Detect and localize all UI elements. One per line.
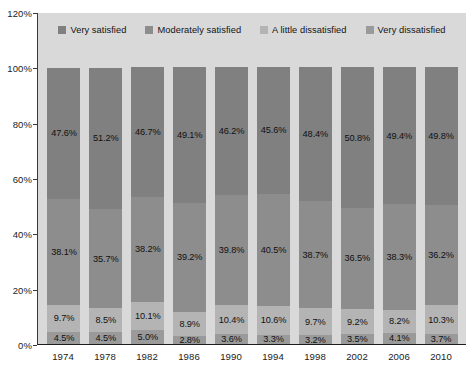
x-tick-label: 1982	[126, 345, 168, 370]
x-tick-label: 1978	[84, 345, 126, 370]
y-tick-label: 100%	[7, 63, 32, 74]
bar-segment-label: 9.2%	[347, 317, 368, 327]
bar-column[interactable]: 48.4%38.7%9.7%3.2%	[294, 13, 336, 344]
bar-segment-label: 38.2%	[135, 244, 161, 254]
bar-segment[interactable]: 49.4%	[383, 67, 416, 204]
bar-segment[interactable]: 10.3%	[425, 305, 458, 333]
bar-segment[interactable]: 2.8%	[173, 336, 206, 344]
bar-column[interactable]: 49.4%38.3%8.2%4.1%	[378, 13, 420, 344]
x-tick-label: 1974	[42, 345, 84, 370]
bar-segment[interactable]: 39.8%	[215, 195, 248, 305]
bar-segment-label: 2.8%	[179, 335, 200, 345]
bar-column[interactable]: 49.8%36.2%10.3%3.7%	[420, 13, 462, 344]
bar-segment-label: 9.7%	[54, 313, 75, 323]
bar-segment[interactable]: 38.1%	[47, 199, 80, 304]
bar-segment[interactable]: 49.1%	[173, 67, 206, 203]
bar-segment[interactable]: 4.1%	[383, 333, 416, 344]
bar-stack: 50.8%36.5%9.2%3.5%	[341, 67, 374, 344]
bar-segment[interactable]: 45.6%	[257, 67, 290, 193]
bar-segment[interactable]: 10.1%	[131, 302, 164, 330]
bar-segment[interactable]: 9.7%	[299, 308, 332, 335]
bar-segment[interactable]: 4.5%	[47, 332, 80, 344]
bar-column[interactable]: 45.6%40.5%10.6%3.3%	[253, 13, 295, 344]
bar-column[interactable]: 51.2%35.7%8.5%4.5%	[85, 13, 127, 344]
bar-segment[interactable]: 46.2%	[215, 67, 248, 195]
bar-segment[interactable]: 9.7%	[47, 305, 80, 332]
bar-segment[interactable]: 3.6%	[215, 334, 248, 344]
bar-segment[interactable]: 36.5%	[341, 208, 374, 309]
bar-segment-label: 39.2%	[177, 252, 203, 262]
bar-segment-label: 5.0%	[137, 332, 158, 342]
bar-column[interactable]: 49.1%39.2%8.9%2.8%	[169, 13, 211, 344]
bar-segment[interactable]: 38.3%	[383, 204, 416, 310]
bar-segment-label: 10.3%	[428, 315, 454, 325]
y-tick-label: 20%	[13, 284, 32, 295]
bar-segment[interactable]: 51.2%	[89, 68, 122, 210]
bar-column[interactable]: 46.2%39.8%10.4%3.6%	[211, 13, 253, 344]
bar-segment-label: 38.3%	[386, 252, 412, 262]
bar-segment[interactable]: 47.6%	[47, 68, 80, 200]
bar-segment[interactable]: 35.7%	[89, 209, 122, 308]
bar-segment-label: 49.8%	[428, 131, 454, 141]
bar-segment-label: 47.6%	[51, 128, 77, 138]
bar-segment-label: 3.2%	[305, 335, 326, 345]
bar-segment-label: 36.5%	[345, 253, 371, 263]
bar-segment[interactable]: 46.7%	[131, 67, 164, 196]
bar-segment-label: 46.2%	[219, 126, 245, 136]
bar-segment-label: 40.5%	[261, 245, 287, 255]
bar-segment-label: 4.1%	[389, 333, 410, 343]
stacked-bar-chart: 0%20%40%60%80%100%120% Very satisfiedMod…	[0, 0, 476, 370]
bar-segment[interactable]: 3.7%	[425, 334, 458, 344]
bar-segment-label: 10.1%	[135, 311, 161, 321]
x-tick-label: 1998	[294, 345, 336, 370]
x-tick-label: 1994	[252, 345, 294, 370]
plot-area: Very satisfiedModerately satisfiedA litt…	[37, 13, 466, 345]
bar-segment[interactable]: 3.2%	[299, 335, 332, 344]
bar-segment[interactable]: 8.9%	[173, 312, 206, 337]
bar-segment[interactable]: 48.4%	[299, 67, 332, 201]
bar-segment-label: 36.2%	[428, 250, 454, 260]
y-tick-label: 0%	[18, 340, 32, 351]
bar-stack: 48.4%38.7%9.7%3.2%	[299, 67, 332, 344]
bar-segment[interactable]: 8.5%	[89, 308, 122, 332]
bar-stack: 46.2%39.8%10.4%3.6%	[215, 67, 248, 344]
bar-segment-label: 4.5%	[54, 333, 75, 343]
bar-segment[interactable]: 8.2%	[383, 310, 416, 333]
bar-column[interactable]: 46.7%38.2%10.1%5.0%	[127, 13, 169, 344]
bar-segment[interactable]: 39.2%	[173, 203, 206, 311]
x-axis: 1974197819821986199019941998200220062010	[37, 345, 466, 370]
bar-segment-label: 38.1%	[51, 247, 77, 257]
y-tick-label: 120%	[7, 8, 32, 19]
bar-segment-label: 3.3%	[263, 334, 284, 344]
bar-segment[interactable]: 9.2%	[341, 309, 374, 334]
bar-segment[interactable]: 38.7%	[299, 201, 332, 308]
y-tick-label: 40%	[13, 229, 32, 240]
bar-segment-label: 10.6%	[261, 315, 287, 325]
bar-segment[interactable]: 4.5%	[89, 332, 122, 344]
bar-stack: 49.1%39.2%8.9%2.8%	[173, 67, 206, 344]
bar-segment-label: 8.9%	[179, 319, 200, 329]
bar-stack: 45.6%40.5%10.6%3.3%	[257, 67, 290, 344]
bar-stack: 49.4%38.3%8.2%4.1%	[383, 67, 416, 344]
x-tick-label: 2010	[420, 345, 462, 370]
bar-segment-label: 10.4%	[219, 315, 245, 325]
bar-segment[interactable]: 3.3%	[257, 335, 290, 344]
bar-segment[interactable]: 49.8%	[425, 67, 458, 205]
bar-segment[interactable]: 10.4%	[215, 305, 248, 334]
bar-column[interactable]: 50.8%36.5%9.2%3.5%	[336, 13, 378, 344]
bar-segment[interactable]: 3.5%	[341, 334, 374, 344]
bar-series-container: 47.6%38.1%9.7%4.5%51.2%35.7%8.5%4.5%46.7…	[38, 13, 466, 344]
bar-segment-label: 46.7%	[135, 127, 161, 137]
bar-segment[interactable]: 10.6%	[257, 306, 290, 335]
bar-segment[interactable]: 38.2%	[131, 197, 164, 303]
bar-segment-label: 38.7%	[303, 250, 329, 260]
bar-segment[interactable]: 50.8%	[341, 67, 374, 208]
bar-segment-label: 51.2%	[93, 133, 119, 143]
bar-stack: 47.6%38.1%9.7%4.5%	[47, 68, 80, 344]
bar-column[interactable]: 47.6%38.1%9.7%4.5%	[43, 13, 85, 344]
bar-stack: 51.2%35.7%8.5%4.5%	[89, 68, 122, 344]
bar-segment[interactable]: 5.0%	[131, 330, 164, 344]
bar-segment-label: 8.5%	[96, 315, 117, 325]
bar-segment[interactable]: 36.2%	[425, 205, 458, 305]
bar-segment[interactable]: 40.5%	[257, 194, 290, 306]
